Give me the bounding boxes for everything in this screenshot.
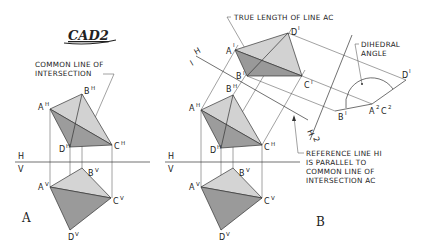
svg-text:I: I xyxy=(345,110,347,116)
auxiliary-view-2: B I A 2 C 2 D I xyxy=(335,68,411,122)
callout-reference-1: REFERENCE LINE HI xyxy=(306,149,382,158)
descriptive-geometry-figure: CAD2 COMMON LINE OF INTERSECTION H V A H… xyxy=(0,0,426,247)
svg-text:V: V xyxy=(95,167,99,173)
svg-text:A: A xyxy=(189,183,195,192)
reference-line-12 xyxy=(310,35,352,140)
svg-text:2: 2 xyxy=(311,135,321,143)
svg-text:C: C xyxy=(264,197,270,206)
svg-text:A: A xyxy=(226,47,232,56)
point-ch: C xyxy=(114,142,120,151)
svg-text:I: I xyxy=(233,42,235,48)
fold-label-h: H xyxy=(18,152,24,161)
svg-text:C: C xyxy=(381,107,387,116)
reference-leader xyxy=(294,117,304,153)
svg-text:B: B xyxy=(226,85,232,94)
cad2-logo: CAD2 xyxy=(64,28,116,44)
ref-label-1: I xyxy=(189,59,196,68)
svg-text:D: D xyxy=(402,71,408,80)
svg-text:D: D xyxy=(219,233,225,242)
svg-text:V: V xyxy=(271,195,275,201)
point-dh: D xyxy=(59,145,65,154)
svg-text:2: 2 xyxy=(376,104,380,110)
svg-text:H: H xyxy=(233,83,237,89)
point-cv: C xyxy=(113,197,119,206)
svg-text:C: C xyxy=(264,143,270,152)
svg-text:H: H xyxy=(91,85,95,91)
callout-reference-2: IS PARALLEL TO xyxy=(306,158,367,167)
panel-b: TRUE LENGTH OF LINE AC DIHEDRAL ANGLE RE… xyxy=(165,13,411,242)
svg-text:H: H xyxy=(217,144,221,150)
svg-text:H: H xyxy=(121,140,125,146)
svg-text:H: H xyxy=(271,141,275,147)
svg-text:H: H xyxy=(196,102,200,108)
svg-text:H: H xyxy=(66,143,70,149)
svg-text:C: C xyxy=(304,81,310,90)
svg-text:H: H xyxy=(305,128,316,137)
svg-text:V: V xyxy=(226,231,230,237)
fold-label-v: V xyxy=(18,165,24,174)
front-view: A V B V C V D V xyxy=(38,167,124,242)
callout-line2: INTERSECTION xyxy=(35,69,92,78)
callout-reference-4: INTERSECTION AC xyxy=(306,176,376,185)
svg-text:V: V xyxy=(168,165,174,174)
panel-label-a: A xyxy=(21,211,31,225)
callout-true-length: TRUE LENGTH OF LINE AC xyxy=(233,13,334,22)
svg-text:B: B xyxy=(236,72,242,81)
callout-line1: COMMON LINE OF xyxy=(35,60,104,69)
point-bh: B xyxy=(84,87,90,96)
svg-text:H: H xyxy=(45,101,49,107)
svg-text:D: D xyxy=(291,28,297,37)
point-ah: A xyxy=(38,103,44,112)
svg-text:V: V xyxy=(120,195,124,201)
auxiliary-view-1: A I D I C I B I xyxy=(226,25,313,90)
panel-a: COMMON LINE OF INTERSECTION H V A H B H … xyxy=(15,60,150,242)
svg-text:I: I xyxy=(409,68,411,74)
callout-dihedral-1: DIHEDRAL xyxy=(361,40,400,49)
svg-text:V: V xyxy=(45,181,49,187)
callout-dihedral-2: ANGLE xyxy=(361,49,387,58)
svg-text:A: A xyxy=(189,104,195,113)
logo-text: CAD2 xyxy=(68,28,109,43)
point-av: A xyxy=(38,183,44,192)
svg-text:V: V xyxy=(196,181,200,187)
svg-text:I: I xyxy=(311,79,313,85)
svg-text:A: A xyxy=(369,107,375,116)
svg-text:D: D xyxy=(210,146,216,155)
dihedral-arc xyxy=(346,78,393,108)
point-dv: D xyxy=(68,233,74,242)
ref-label-h: H xyxy=(193,46,203,57)
panel-label-b: B xyxy=(316,215,325,229)
svg-text:H: H xyxy=(168,152,174,161)
svg-text:B: B xyxy=(239,169,245,178)
svg-text:2: 2 xyxy=(388,104,392,110)
svg-text:B: B xyxy=(338,113,344,122)
svg-text:V: V xyxy=(75,231,79,237)
point-bv: B xyxy=(88,169,94,178)
svg-text:V: V xyxy=(246,167,250,173)
top-view: A H B H C H D H xyxy=(38,85,125,154)
svg-text:I: I xyxy=(298,25,300,31)
callout-reference-3: COMMON LINE OF xyxy=(306,167,375,176)
